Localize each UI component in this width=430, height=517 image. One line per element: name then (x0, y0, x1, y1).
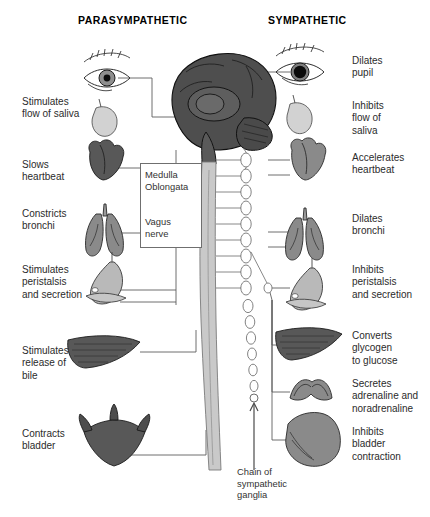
organ-lungs-right (285, 208, 323, 260)
label-para-heart: Slows heartbeat (22, 159, 64, 184)
label-symp-glycogen: Converts glycogen to glucose (352, 330, 398, 367)
label-symp-bronchi: Dilates bronchi (352, 213, 385, 238)
organ-heart-left (89, 140, 124, 180)
label-symp-bladder: Inhibits bladder contraction (352, 426, 401, 463)
label-para-bronchi: Constricts bronchi (22, 208, 66, 233)
organ-bladder-left (79, 404, 150, 466)
organ-liver-right (276, 328, 342, 360)
sympathetic-ganglia-chain (216, 148, 272, 392)
organ-lungs-left (85, 204, 123, 256)
label-para-saliva: Stimulates flow of saliva (22, 96, 79, 121)
label-symp-heart: Accelerates heartbeat (352, 152, 404, 177)
label-symp-adrenaline: Secretes adrenaline and noradrenaline (352, 378, 418, 415)
label-para-bile: Stimulates release of bile (22, 345, 69, 382)
organ-adrenal-gland (290, 380, 332, 400)
organ-liver-left (68, 336, 140, 368)
autonomic-nervous-system-diagram: PARASYMPATHETIC SYMPATHETIC (0, 0, 430, 517)
label-symp-saliva: Inhibits flow of saliva (352, 100, 384, 137)
label-medulla-oblongata: Medulla Oblongata (145, 169, 188, 192)
label-vagus-nerve: Vagus nerve (145, 216, 171, 239)
organ-salivary-gland-right (287, 95, 312, 134)
label-para-bladder: Contracts bladder (22, 428, 65, 453)
brain-sagittal (172, 54, 276, 164)
organ-eye-constricted (84, 49, 130, 91)
label-para-peristalsis: Stimulates peristalsis and secretion (22, 264, 82, 301)
organ-stomach-right (286, 258, 326, 310)
organ-salivary-gland-left (92, 99, 117, 136)
label-symp-peristalsis: Inhibits peristalsis and secretion (352, 264, 412, 301)
organ-bladder-right (286, 412, 341, 466)
organ-stomach-left (86, 252, 126, 304)
label-symp-pupil: Dilates pupil (352, 55, 383, 80)
organ-eye-dilated (276, 43, 324, 85)
organ-heart-right (291, 138, 326, 180)
label-ganglia-chain: Chain of sympathetic ganglia (237, 466, 287, 501)
